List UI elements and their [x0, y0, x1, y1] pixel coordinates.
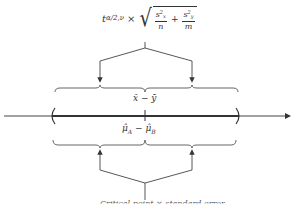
radical-icon: √ [140, 6, 152, 30]
top-fork-arrows [100, 42, 192, 80]
fraction-y: s2y m [182, 8, 194, 31]
sample-mean-difference-label: x̄ − ȳ [133, 93, 156, 103]
standard-error-formula: tα/2,ν × √ s2x n + s2y m [102, 4, 197, 32]
lower-brace [53, 140, 236, 148]
bottom-fork-arrows [100, 152, 192, 200]
times-operator: × [127, 13, 135, 24]
upper-brace [55, 85, 238, 92]
square-root: √ s2x n + s2y m [138, 6, 196, 31]
plus-operator: + [171, 14, 179, 24]
t-subscript: α/2,ν [106, 14, 124, 22]
fraction-x: s2x n [155, 8, 167, 31]
estimated-mean-difference-label: μ̂A − μ̂B [122, 123, 156, 135]
